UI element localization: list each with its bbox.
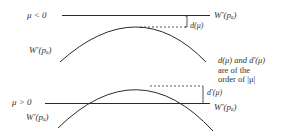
bottom-condition-label: μ > 0	[12, 97, 32, 107]
top-condition-label: μ < 0	[27, 10, 47, 20]
top-gap-label: d(μ)	[190, 21, 203, 31]
top-curve-label: W'(pₐ)	[29, 45, 52, 55]
bottom-gap-label: d'(μ)	[207, 88, 222, 98]
top-concave-curve	[60, 27, 206, 62]
order-note: d(μ) and d'(μ) are of the order of |μ|	[218, 56, 265, 85]
bottom-curve-label: W'(pₐ)	[26, 112, 49, 122]
order-note-line-3: order of |μ|	[218, 75, 265, 85]
bottom-concave-curve	[58, 90, 213, 131]
top-line-label: W'(pₐ)	[214, 10, 237, 20]
top-gap-bracket	[185, 16, 187, 27]
bottom-line-label: W'(pₐ)	[214, 102, 237, 112]
